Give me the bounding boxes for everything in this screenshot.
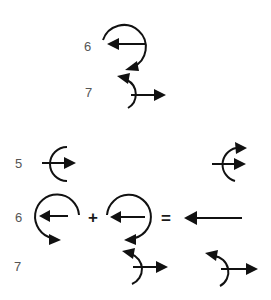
row-label-7-top: 7 xyxy=(85,85,92,100)
row-label-7: 7 xyxy=(14,259,21,274)
arc-double-arrow-glyph-5-right xyxy=(212,142,247,181)
row-label-6: 6 xyxy=(15,210,22,225)
long-left-arrow-result xyxy=(184,211,242,225)
vector-diagram: 6 7 5 6 + = xyxy=(0,0,271,300)
plus-operator: + xyxy=(88,208,98,227)
arc-arrow-glyph-7-middle xyxy=(122,248,168,284)
curl-glyph-6-left xyxy=(35,195,79,245)
arc-arrow-glyph-7-right xyxy=(205,250,258,286)
arc-arrow-glyph-5-left xyxy=(42,147,76,181)
curl-glyph-6-middle xyxy=(107,195,151,245)
equals-operator: = xyxy=(161,209,171,228)
curl-glyph-top-6 xyxy=(103,25,146,71)
row-label-5: 5 xyxy=(15,156,22,171)
row-label-6-top: 6 xyxy=(84,39,91,54)
arc-arrow-glyph-top-7 xyxy=(117,73,166,108)
